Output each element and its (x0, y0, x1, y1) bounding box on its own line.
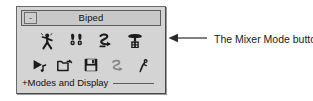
save-file-button[interactable] (83, 56, 100, 75)
mode-button-row (17, 29, 165, 53)
floppy-disk-icon (84, 58, 98, 72)
loop-cycle-button[interactable] (109, 56, 126, 75)
callout-mixer-mode: The Mixer Mode button (168, 30, 313, 48)
pose-figure-button[interactable] (135, 56, 152, 75)
rollout-label: +Modes and Display (22, 78, 108, 88)
minimize-button[interactable]: - (24, 12, 37, 24)
footprints-icon (69, 33, 84, 50)
motion-flow-icon (98, 33, 113, 50)
mixer-icon (127, 33, 143, 50)
walking-figure-icon (40, 33, 55, 50)
pose-figure-icon (137, 58, 150, 73)
open-folder-icon (57, 58, 73, 73)
figure-mode-button[interactable] (39, 32, 56, 51)
callout-arrow-icon (168, 30, 208, 48)
modes-and-display-rollout[interactable]: +Modes and Display (22, 76, 160, 89)
load-motion-button[interactable] (31, 56, 48, 75)
motion-flow-mode-button[interactable] (97, 32, 114, 51)
rollout-divider (113, 83, 154, 84)
footstep-mode-button[interactable] (68, 32, 85, 51)
open-file-button[interactable] (57, 56, 74, 75)
panel-titlebar[interactable]: - Biped (21, 10, 161, 26)
panel-title: Biped (79, 13, 104, 23)
mixer-mode-button[interactable] (126, 32, 143, 51)
loop-cycle-icon (110, 58, 125, 73)
play-track-icon (32, 58, 47, 73)
biped-command-panel: - Biped (16, 6, 166, 94)
callout-label: The Mixer Mode button (214, 34, 313, 45)
file-button-row (17, 54, 165, 76)
